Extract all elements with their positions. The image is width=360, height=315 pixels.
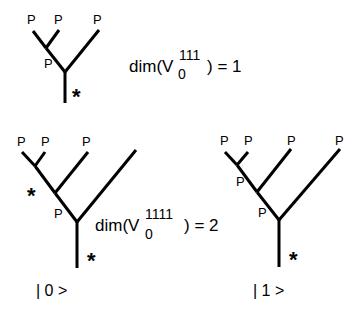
tree1-leaf-label-1: P [27, 12, 36, 27]
tree2-leaf-label-3: P [82, 134, 91, 149]
tree2-edge-leaf4 [77, 150, 136, 222]
tree3-leaf-label-2: P [244, 133, 253, 148]
tree2-edge-leaf3 [55, 152, 88, 193]
tree3-leaf-label-4: P [335, 133, 344, 148]
eq1-superscript: 111 [179, 47, 200, 63]
tree2-internal-star: * [27, 183, 36, 208]
eq2-suffix: ) = 2 [184, 216, 219, 235]
tree2-edge-leaf1 [22, 152, 35, 166]
tree3-leaf-label-3: P [287, 133, 296, 148]
tree1-edge-leaf2 [46, 30, 59, 48]
tree2-ket-label: | 0 > [36, 282, 67, 299]
tree1-root-star: * [72, 84, 81, 109]
tree1-leaf-label-2: P [54, 12, 63, 27]
equation-1: dim(V 0 111 ) = 1 [129, 47, 242, 82]
tree1-leaf-label-3: P [93, 12, 102, 27]
tree1-edge-leaf1 [33, 31, 46, 48]
tree-3: P P P P P P * | 1 > [220, 133, 344, 299]
eq2-subscript: 0 [145, 226, 153, 242]
tree3-edge-leaf1 [225, 152, 237, 165]
tree-1: P P P P * [27, 12, 102, 109]
tree3-ket-label: | 1 > [253, 282, 284, 299]
tree2-edge-leaf2 [35, 152, 45, 166]
eq1-suffix: ) = 1 [207, 57, 242, 76]
tree3-edge-leaf3 [257, 149, 291, 192]
equation-2: dim(V 0 1111 ) = 2 [95, 206, 219, 242]
eq2-prefix: dim(V [95, 216, 140, 235]
tree2-leaf-label-1: P [17, 134, 26, 149]
tree3-edge-leaf2 [237, 152, 248, 165]
eq2-superscript: 1111 [145, 206, 173, 222]
tree2-leaf-label-2: P [41, 134, 50, 149]
eq1-subscript: 0 [178, 66, 186, 82]
tree3-root-star: * [289, 247, 298, 272]
tree3-internal-label-2: P [258, 205, 267, 220]
eq1-prefix: dim(V [129, 57, 174, 76]
tree1-internal-label: P [44, 56, 53, 71]
tree3-leaf-label-1: P [220, 133, 229, 148]
tree1-edge-leaf3 [65, 30, 99, 72]
tree2-internal-label: P [54, 206, 63, 221]
fusion-tree-diagram: P P P P * dim(V 0 111 ) = 1 P P P * P * … [0, 0, 360, 315]
tree3-internal-label-1: P [236, 174, 245, 189]
tree3-edge-leaf4 [279, 149, 340, 220]
tree2-root-star: * [87, 248, 96, 273]
tree2-edge-inner1 [35, 166, 55, 193]
